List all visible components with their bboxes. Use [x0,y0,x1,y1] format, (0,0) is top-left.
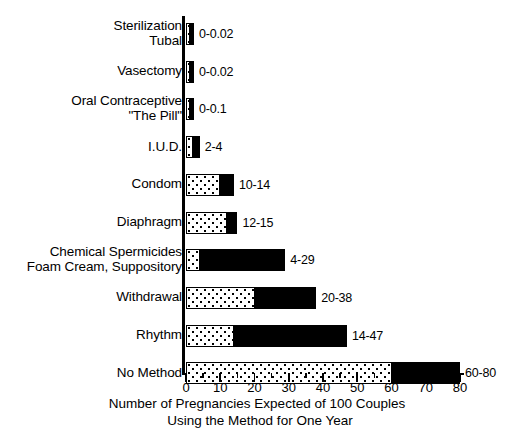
bar-row: 4-29 [186,249,460,271]
bar-segment-low [186,287,255,309]
x-tick-label: 80 [453,381,467,395]
bar-row: 0-0.02 [186,23,460,45]
category-label-line: Foam Cream, Suppository [27,259,182,274]
bar-row: 14-47 [186,325,460,347]
plot-area: 0-0.020-0.020-0.12-410-1412-154-2920-381… [186,16,460,375]
bar-row: 0-0.1 [186,98,460,120]
bar-segment-high [255,287,317,309]
bar-value-label: 0-0.02 [199,65,233,78]
x-axis-title-line-1: Number of Pregnancies Expected of 100 Co… [0,396,514,413]
category-label: Rhythm [136,327,182,342]
bar-segment-low [186,174,220,196]
x-tick-label: 10 [213,381,227,395]
category-label-line: Chemical Spermicides [27,244,182,259]
category-label-line: Tubal [114,33,182,48]
category-label-line: Condom [132,176,182,191]
x-tick-minor [339,373,341,378]
category-label-line: Oral Contraceptive [71,93,182,108]
bar-segment-high [220,174,234,196]
category-label: I.U.D. [148,139,182,154]
bar-segment-high [193,136,200,158]
x-axis-title-line-2: Using the Method for One Year [0,413,514,430]
x-tick-minor [237,373,239,378]
x-tick-label: 40 [316,381,330,395]
bar-value-label: 14-47 [352,329,383,342]
bar-row: 20-38 [186,287,460,309]
category-label: SterilizationTubal [114,18,182,48]
bar-segment-low [186,325,234,347]
x-tick-minor [305,373,307,378]
category-label: Diaphragm [117,214,182,229]
bar-segment-low [186,249,200,271]
category-label-line: Rhythm [136,327,182,342]
bar-row: 2-4 [186,136,460,158]
bar-segment-low [186,212,227,234]
category-label-line: "The Pill" [71,108,182,123]
bar-segment-high [200,249,286,271]
bar-value-label: 10-14 [239,178,270,191]
bar-row: 0-0.02 [186,61,460,83]
x-tick-minor [408,373,410,378]
category-label-line: Withdrawal [116,289,182,304]
category-label: Vasectomy [117,63,182,78]
x-tick-label: 0 [182,381,189,395]
x-tick-label: 50 [350,381,364,395]
bar-row: 10-14 [186,174,460,196]
x-axis-title: Number of Pregnancies Expected of 100 Co… [0,396,514,429]
category-label: Withdrawal [116,289,182,304]
bar-value-label: 60-80 [465,367,496,380]
bar-row: 12-15 [186,212,460,234]
category-label: Condom [132,176,182,191]
bar-segment-low [186,136,193,158]
x-tick-minor [374,373,376,378]
category-label: No Method [117,365,182,380]
contraceptive-effectiveness-bar-chart: SterilizationTubalVasectomyOral Contrace… [0,0,514,439]
x-tick-label: 30 [282,381,296,395]
bar-value-label: 4-29 [290,254,314,267]
category-label-line: I.U.D. [148,139,182,154]
y-axis-line [182,16,185,375]
bar-value-label: 20-38 [321,291,352,304]
x-tick-label: 70 [419,381,433,395]
bar-segment-high [234,325,347,347]
category-label-line: No Method [117,365,182,380]
bar-segment-high [190,61,194,83]
category-label-line: Sterilization [114,18,182,33]
x-tick-minor [271,373,273,378]
bar-value-label: 12-15 [242,216,273,229]
x-tick-minor [442,373,444,378]
category-label: Oral Contraceptive"The Pill" [71,93,182,123]
bar-value-label: 2-4 [205,141,222,154]
x-tick-minor [202,373,204,378]
bar-segment-high [227,212,237,234]
bar-segment-high [190,23,194,45]
category-label: Chemical SpermicidesFoam Cream, Supposit… [27,244,182,274]
bar-value-label: 0-0.1 [199,103,227,116]
category-label-line: Diaphragm [117,214,182,229]
category-label-line: Vasectomy [117,63,182,78]
x-tick-label: 20 [247,381,261,395]
x-tick-label: 60 [384,381,398,395]
bar-segment-high [190,98,194,120]
bar-value-label: 0-0.02 [199,28,233,41]
